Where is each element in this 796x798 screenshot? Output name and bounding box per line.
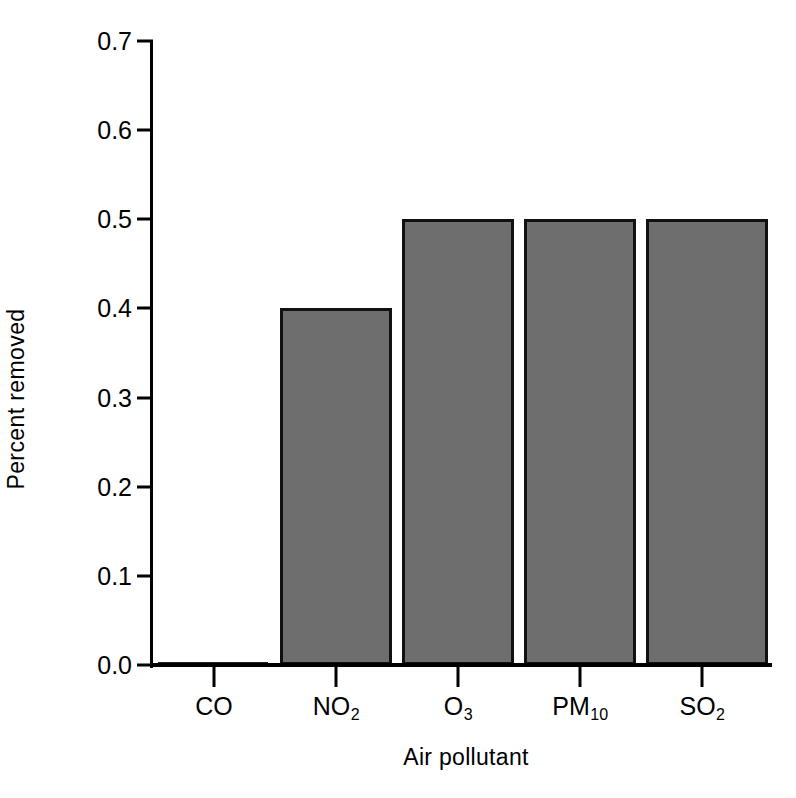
x-axis-tick-mark — [579, 665, 582, 687]
x-axis-title-label: Air pollutant — [403, 744, 528, 770]
x-tick-label-base: O — [444, 692, 463, 720]
x-tick-label-subscript: 2 — [716, 706, 725, 723]
x-axis-tick-label: NO2 — [313, 694, 359, 719]
x-tick-label-base: CO — [195, 692, 233, 720]
x-axis-tick-mark — [335, 665, 338, 687]
x-tick-label-base: SO — [679, 692, 715, 720]
x-axis-tick-label: CO — [195, 694, 233, 719]
bar-series — [0, 0, 796, 798]
x-tick-label-subscript: 2 — [351, 706, 360, 723]
x-axis-tick-mark — [701, 665, 704, 687]
x-axis-title: Air pollutant — [0, 744, 796, 771]
x-axis-tick-label: O3 — [444, 694, 472, 719]
bar-NO2 — [280, 308, 392, 665]
x-axis-tick-mark — [213, 665, 216, 687]
bar-O3 — [402, 219, 514, 665]
x-tick-label-subscript: 3 — [464, 706, 473, 723]
x-tick-label-base: PM — [552, 692, 590, 720]
x-axis-line — [152, 663, 772, 667]
bar-chart-figure: Percent removed 0.00.10.20.30.40.50.60.7… — [0, 0, 796, 798]
bar-SO2 — [646, 219, 768, 665]
x-axis-tick-mark — [457, 665, 460, 687]
x-axis-tick-label: PM10 — [552, 694, 607, 719]
bar-PM10 — [524, 219, 636, 665]
x-axis-tick-label: SO2 — [679, 694, 724, 719]
x-tick-label-base: NO — [313, 692, 351, 720]
x-tick-label-subscript: 10 — [590, 706, 608, 723]
